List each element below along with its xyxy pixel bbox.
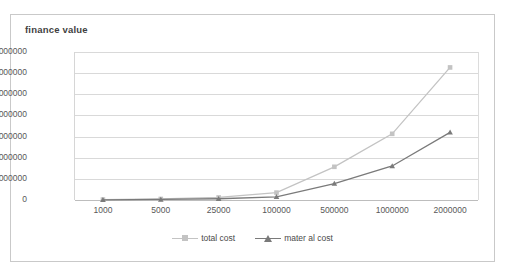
- legend-item-material-cost[interactable]: mater al cost: [255, 233, 333, 243]
- series-line-total-cost: [103, 67, 450, 199]
- y-axis-tick-label: 4000000: [0, 109, 27, 119]
- data-point-square: [390, 132, 395, 137]
- y-axis-tick-label: 3000000: [0, 131, 27, 141]
- y-axis-tick-label: 1000000: [0, 173, 27, 183]
- legend-label-total-cost: total cost: [201, 233, 235, 243]
- legend-item-total-cost[interactable]: total cost: [172, 233, 235, 243]
- chart-legend: total cost mater al cost: [11, 233, 494, 243]
- y-axis-tick-label: 2000000: [0, 152, 27, 162]
- legend-swatch-total-cost: [172, 234, 198, 243]
- y-axis-tick-label: 5000000: [0, 88, 27, 98]
- data-point-square: [448, 65, 453, 70]
- y-axis-tick-label: 7000000: [0, 46, 27, 56]
- y-axis-tick-label: 0: [0, 194, 27, 204]
- data-point-square: [332, 165, 337, 170]
- x-axis-tick-label: 2000000: [410, 205, 490, 215]
- y-axis-tick-label: 6000000: [0, 67, 27, 77]
- series-layer: [74, 52, 479, 200]
- chart-container: finance value 01000000200000030000004000…: [10, 14, 495, 262]
- legend-swatch-material-cost: [255, 234, 281, 243]
- data-point-triangle: [447, 130, 453, 135]
- legend-marker-square-icon: [182, 235, 188, 241]
- series-line-mater-al-cost: [103, 132, 450, 199]
- data-point-triangle: [389, 163, 395, 168]
- legend-marker-triangle-icon: [264, 235, 272, 242]
- plot-wrapper: 0100000020000003000000400000050000006000…: [11, 15, 496, 263]
- legend-label-material-cost: mater al cost: [284, 233, 333, 243]
